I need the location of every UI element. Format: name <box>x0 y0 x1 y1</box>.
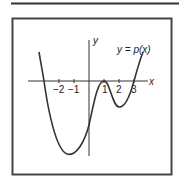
y-axis-label: y <box>92 35 99 46</box>
tick-label-neg1: −1 <box>68 84 80 95</box>
x-axis-label: x <box>148 76 155 87</box>
figure-frame <box>13 19 172 175</box>
tick-label-2: 2 <box>116 84 122 95</box>
polynomial-graph-figure: y x y = p(x) −2 −1 1 2 3 <box>0 0 179 183</box>
polynomial-curve <box>39 52 143 154</box>
tick-label-3: 3 <box>131 84 137 95</box>
tick-label-1: 1 <box>102 84 108 95</box>
tick-label-neg2: −2 <box>53 84 65 95</box>
curve-label: y = p(x) <box>116 44 151 55</box>
